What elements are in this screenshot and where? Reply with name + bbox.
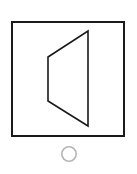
geometric-figure bbox=[0, 0, 137, 174]
circle-marker-icon bbox=[62, 147, 76, 161]
figure-canvas: Line drawing: a square outline containin… bbox=[0, 0, 137, 174]
